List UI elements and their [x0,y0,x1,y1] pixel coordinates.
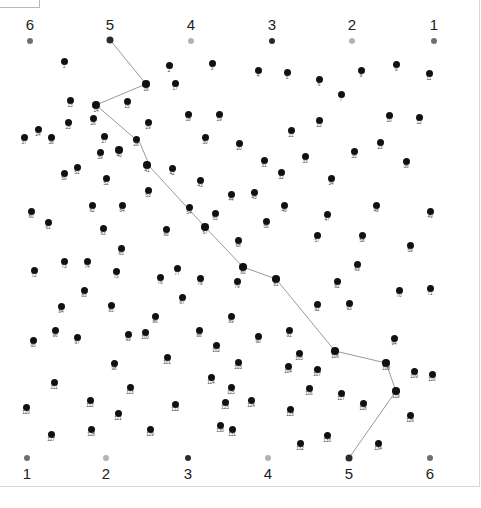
dot-label-102: 102 [212,349,220,354]
dot-label-96: 96 [52,334,57,339]
dot-label-128: 128 [87,433,95,438]
top-marker-6[interactable] [27,38,33,44]
dot-label-132: 132 [296,447,304,452]
dot-label-15: 15 [124,105,129,110]
dot-label-118: 118 [359,407,366,412]
dot-label-5: 5 [286,76,289,81]
dot-label-93: 93 [346,307,351,312]
dot-label-35: 35 [351,155,356,160]
dot-label-119: 119 [392,395,399,400]
dot-label-84: 84 [58,310,63,315]
dot-label-70: 70 [396,294,401,299]
dot-label-39: 39 [97,156,102,161]
dot-label-24: 24 [35,133,40,138]
dot-label-123: 123 [221,406,229,411]
dot-label-43: 43 [197,184,202,189]
dot-label-117: 117 [337,397,344,402]
dot-label-129: 129 [146,433,154,438]
dot-label-48: 48 [373,209,378,214]
dot-label-131: 131 [228,433,236,438]
dot-label-91: 91 [286,334,291,339]
dot-label-29: 29 [145,126,150,131]
path-polyline [96,40,396,458]
dot-label-78: 78 [197,282,202,287]
top-marker-2[interactable] [349,38,355,44]
dot-label-86: 86 [152,320,157,325]
bottom-marker-label-6: 6 [426,466,434,481]
dot-label-62: 62 [89,209,94,214]
dot-label-20: 20 [236,147,241,152]
dot-label-57: 57 [314,239,319,244]
dot-label-111: 111 [51,386,58,391]
dot-label-85: 85 [108,309,113,314]
bottom-marker-4[interactable] [265,455,271,461]
bottom-marker-label-5: 5 [345,466,353,481]
dot-label-18: 18 [185,118,190,123]
dot-label-127: 127 [47,438,55,443]
dot-label-30: 30 [202,141,207,146]
dot-label-54: 54 [186,211,191,216]
dot-label-101: 101 [163,361,171,366]
dot-label-36: 36 [403,165,408,170]
dot-label-82: 82 [334,285,339,290]
dot-label-16: 16 [143,88,148,93]
top-marker-4[interactable] [188,38,194,44]
bottom-marker-label-1: 1 [23,466,31,481]
dot-label-94: 94 [391,342,396,347]
dot-label-59: 59 [407,249,412,254]
dot-label-95: 95 [30,344,35,349]
dot-label-67: 67 [202,231,207,236]
dot-label-122: 122 [171,408,179,413]
dot-label-79: 79 [234,285,239,290]
dot-label-77: 77 [174,272,179,277]
top-marker-1[interactable] [431,38,437,44]
dot-label-68: 68 [235,244,240,249]
dot-label-34: 34 [328,182,333,187]
dot-label-58: 58 [359,239,364,244]
dot-label-25: 25 [65,126,70,131]
dot-label-45: 45 [251,196,256,201]
dot-label-116: 116 [305,392,312,397]
bottom-marker-1[interactable] [24,455,30,461]
dot-label-98: 98 [111,367,116,372]
dot-label-126: 126 [406,419,414,424]
dot-label-19: 19 [216,118,221,123]
dot-label-13: 13 [67,104,72,109]
dot-label-124: 124 [247,404,255,409]
dot-label-112: 112 [86,404,93,409]
dot-label-55: 55 [212,217,217,222]
dot-label-60: 60 [28,215,33,220]
dot-label-65: 65 [118,252,123,257]
dot-label-108: 108 [382,367,390,372]
dot-label-109: 109 [410,375,418,380]
dot-label-41: 41 [144,169,149,174]
connecting-path [0,0,481,508]
bottom-marker-3[interactable] [185,455,191,461]
dot-label-33: 33 [302,160,307,165]
bottom-marker-5[interactable] [346,455,353,462]
dot-label-66: 66 [163,233,168,238]
dot-label-10: 10 [386,119,391,124]
bottom-marker-2[interactable] [103,455,109,461]
dot-label-81: 81 [273,283,278,288]
dot-label-114: 114 [207,381,214,386]
dot-label-90: 90 [255,340,260,345]
dot-label-73: 73 [61,265,66,270]
dot-label-44: 44 [228,198,233,203]
top-marker-label-4: 4 [187,17,195,32]
top-marker-3[interactable] [269,38,275,44]
dot-label-69: 69 [354,268,359,273]
dot-label-110: 110 [428,378,435,383]
dot-map-canvas: 654321 123456 12345678910111213141516171… [0,0,481,508]
dot-label-3: 3 [211,67,214,72]
dot-label-63: 63 [100,232,105,237]
dot-label-22: 22 [316,124,321,129]
bottom-marker-6[interactable] [427,455,433,461]
dot-label-107: 107 [313,373,321,378]
dot-label-21: 21 [288,134,293,139]
dot-label-92: 92 [314,308,319,313]
top-marker-5[interactable] [107,37,114,44]
dot-label-47: 47 [324,218,329,223]
dot-label-100: 100 [141,336,149,341]
dot-label-51: 51 [74,171,79,176]
